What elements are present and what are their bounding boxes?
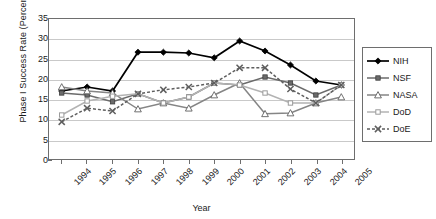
y-tick-label: 10 [26, 114, 48, 124]
data-point-filled-square [376, 75, 380, 79]
legend-item-nih[interactable]: NIH [366, 52, 428, 69]
data-point-filled-square [263, 75, 267, 79]
x-tick-label: 1998 [174, 166, 195, 187]
data-point-filled-diamond [375, 57, 381, 63]
series-layer [49, 19, 354, 159]
x-tick-label: 2002 [276, 166, 297, 187]
data-point-open-square [263, 91, 267, 95]
legend-item-nsf[interactable]: NSF [366, 69, 428, 86]
legend-swatch-nasa-icon [366, 88, 390, 102]
data-point-open-square [376, 109, 380, 113]
legend-label: DoE [390, 124, 411, 134]
x-tick-mark [240, 160, 241, 164]
data-point-filled-diamond [160, 49, 166, 55]
x-tick-label: 2005 [353, 166, 374, 187]
y-tick-label: 0 [26, 155, 48, 165]
legend-item-nasa[interactable]: NASA [366, 86, 428, 103]
data-point-filled-square [110, 100, 114, 104]
x-tick-label: 1999 [200, 166, 221, 187]
x-tick-label: 1995 [97, 166, 118, 187]
data-point-open-triangle [211, 92, 218, 98]
data-point-cross-x [375, 125, 381, 131]
x-tick-mark [112, 160, 113, 164]
legend-swatch-nsf-icon [366, 71, 390, 85]
data-point-filled-diamond [186, 50, 192, 56]
legend-swatch-dod-icon [366, 105, 390, 119]
x-axis-title: Year [48, 203, 355, 213]
y-tick-label: 15 [26, 94, 48, 104]
data-point-open-square [60, 113, 64, 117]
data-point-open-square [110, 94, 114, 98]
x-tick-mark [138, 160, 139, 164]
x-tick-label: 1994 [72, 166, 93, 187]
data-point-cross-x [59, 119, 65, 125]
x-tick-label: 2001 [251, 166, 272, 187]
x-tick-label: 2004 [327, 166, 348, 187]
x-tick-label: 2003 [302, 166, 323, 187]
series-line [62, 41, 342, 91]
legend-swatch-doe-icon [366, 122, 390, 136]
x-tick-mark [214, 160, 215, 164]
data-point-open-square [161, 101, 165, 105]
legend-swatch-nih-icon [366, 54, 390, 68]
x-tick-mark [61, 160, 62, 164]
series-doe [59, 65, 345, 125]
y-axis-ticks: 05101520253035 [0, 18, 48, 160]
chart-figure: Phase I Success Rate (Percent) 051015202… [0, 0, 436, 219]
data-point-open-square [85, 99, 89, 103]
data-point-open-square [288, 101, 292, 105]
data-point-filled-square [288, 81, 292, 85]
legend-item-dod[interactable]: DoD [366, 103, 428, 120]
x-tick-mark [86, 160, 87, 164]
x-tick-mark [163, 160, 164, 164]
data-point-cross-x [160, 87, 166, 93]
y-tick-label: 35 [26, 13, 48, 23]
y-tick-label: 25 [26, 54, 48, 64]
data-point-filled-square [314, 93, 318, 97]
legend-label: DoD [390, 107, 411, 117]
legend-label: NIH [390, 56, 409, 66]
x-tick-mark [189, 160, 190, 164]
x-axis-ticks: 1994199519961997199819992000200120022003… [48, 160, 355, 204]
x-tick-label: 1996 [123, 166, 144, 187]
data-point-open-square [187, 95, 191, 99]
legend-item-doe[interactable]: DoE [366, 120, 428, 137]
data-point-cross-x [287, 86, 293, 92]
x-tick-mark [342, 160, 343, 164]
x-tick-label: 2000 [225, 166, 246, 187]
data-point-open-triangle [338, 94, 345, 100]
data-point-open-square [237, 83, 241, 87]
y-tick-label: 30 [26, 33, 48, 43]
series-line [62, 68, 342, 122]
y-tick-label: 5 [26, 135, 48, 145]
legend-label: NSF [390, 73, 411, 83]
chart-legend: NIHNSFNASADoDDoE [362, 47, 432, 142]
plot-area [48, 18, 355, 160]
x-tick-mark [291, 160, 292, 164]
y-tick-label: 20 [26, 74, 48, 84]
x-tick-mark [265, 160, 266, 164]
x-tick-label: 1997 [148, 166, 169, 187]
x-tick-mark [317, 160, 318, 164]
data-point-filled-square [60, 91, 64, 95]
legend-label: NASA [390, 90, 418, 100]
